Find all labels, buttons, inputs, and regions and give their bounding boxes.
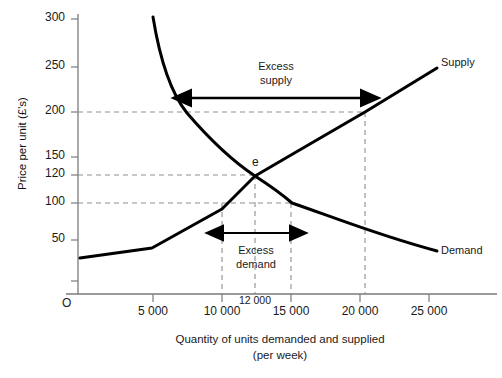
equilibrium-point-label: e [252,156,259,169]
x-axis-title-line2: (per week) [130,349,430,361]
y-tick-100: 100 [25,195,65,208]
excess-supply-label-line1: Excess [231,61,321,73]
x-axis-ticks [153,294,429,302]
y-tick-200: 200 [25,104,65,117]
x-axis-title-line1: Quantity of units demanded and supplied [130,333,430,345]
chart-canvas [0,0,502,378]
supply-demand-chart: 300 250 200 150 120 100 50 O 5 000 10 00… [0,0,502,378]
x-tick-12000: 12 000 [225,295,285,306]
x-tick-10000: 10 000 [192,305,252,318]
y-tick-250: 250 [25,59,65,72]
origin-label: O [62,297,71,310]
supply-curve-label: Supply [441,57,475,69]
y-tick-150: 150 [25,149,65,162]
x-tick-20000: 20 000 [330,305,390,318]
y-tick-300: 300 [25,11,65,24]
excess-demand-label-line1: Excess [211,245,301,257]
y-axis-ticks [71,19,78,281]
excess-supply-label-line2: supply [231,75,321,87]
x-tick-25000: 25 000 [399,305,459,318]
x-tick-15000: 15 000 [261,305,321,318]
y-tick-50: 50 [25,232,65,245]
excess-demand-label-line2: demand [211,259,301,271]
demand-curve [153,17,437,251]
y-tick-120: 120 [25,167,65,180]
demand-curve-label: Demand [441,245,483,257]
y-axis-title: Price per unit (£'s) [16,97,28,190]
x-tick-5000: 5 000 [123,305,183,318]
